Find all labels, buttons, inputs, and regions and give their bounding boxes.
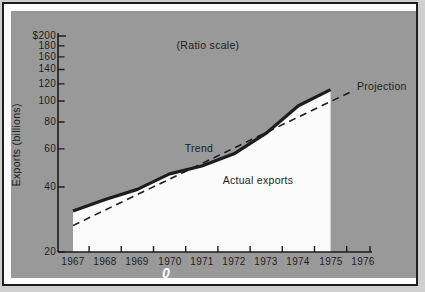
- actual-exports-label: Actual exports: [198, 175, 318, 187]
- x-tick-label: 1971: [185, 256, 219, 267]
- y-tick-label: 100: [16, 95, 56, 106]
- y-tick-label: 140: [16, 63, 56, 74]
- y-tick-label: 180: [16, 40, 56, 51]
- trend-label: Trend: [139, 143, 259, 155]
- x-tick-label: 1973: [249, 256, 283, 267]
- x-tick-label: 1968: [88, 256, 122, 267]
- footnote-marker: 0: [162, 266, 170, 281]
- x-tick-label: 1972: [217, 256, 251, 267]
- y-tick-label: 20: [16, 246, 56, 257]
- x-tick-label: 1967: [56, 256, 90, 267]
- y-tick-label: 160: [16, 51, 56, 62]
- y-tick-label: 80: [16, 116, 56, 127]
- x-tick-label: 1974: [281, 256, 315, 267]
- ratio-scale-note: (Ratio scale): [148, 40, 268, 52]
- y-tick-label: 60: [16, 143, 56, 154]
- x-tick-label: 1976: [346, 256, 380, 267]
- x-tick-label: 1975: [314, 256, 348, 267]
- chart-figure: Exports (billions) (Ratio scale) Trend A…: [0, 0, 425, 292]
- x-tick-label: 1969: [120, 256, 154, 267]
- y-tick-label: 120: [16, 78, 56, 89]
- x-tick-label: 1970: [153, 256, 187, 267]
- y-tick-label: 40: [16, 181, 56, 192]
- projection-label: Projection: [357, 81, 407, 93]
